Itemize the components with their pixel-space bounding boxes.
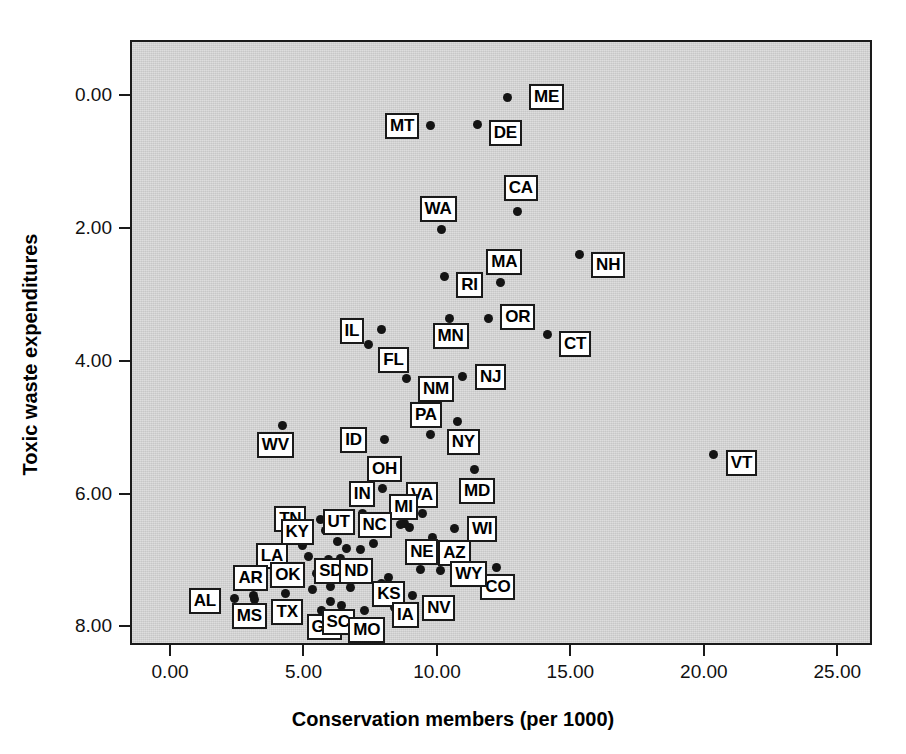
data-point: [426, 121, 435, 130]
x-tick-mark: [569, 645, 571, 656]
point-label-al: AL: [189, 588, 221, 614]
data-point: [709, 450, 718, 459]
point-label-ca: CA: [504, 175, 538, 201]
data-point: [278, 421, 287, 430]
data-point: [405, 523, 414, 532]
x-tick-label: 15.00: [547, 661, 595, 683]
x-tick-mark: [302, 645, 304, 656]
y-tick-mark: [119, 625, 130, 627]
data-point: [364, 340, 373, 349]
point-label-mt: MT: [385, 113, 419, 139]
data-point: [369, 539, 378, 548]
data-point: [396, 520, 405, 529]
point-label-pa: PA: [410, 402, 442, 428]
data-point: [453, 417, 462, 426]
data-point: [492, 563, 501, 572]
x-axis-label: Conservation members (per 1000): [0, 708, 906, 731]
point-label-wy: WY: [450, 561, 487, 587]
data-point: [304, 552, 313, 561]
x-tick-label: 0.00: [152, 661, 189, 683]
data-point: [360, 606, 369, 615]
data-point: [356, 545, 365, 554]
x-tick-mark: [436, 645, 438, 656]
point-label-ok: OK: [270, 562, 305, 588]
data-point: [458, 372, 467, 381]
point-label-il: IL: [340, 318, 365, 344]
point-label-id: ID: [340, 427, 367, 453]
point-label-nv: NV: [422, 595, 455, 621]
x-tick-label: 25.00: [814, 661, 862, 683]
data-point: [380, 435, 389, 444]
x-tick-label: 10.00: [413, 661, 461, 683]
data-point: [496, 278, 505, 287]
point-label-oh: OH: [367, 456, 402, 482]
point-label-tx: TX: [271, 599, 302, 625]
point-label-mi: MI: [389, 494, 417, 520]
data-point: [473, 120, 482, 129]
data-point: [513, 207, 522, 216]
data-point: [333, 537, 342, 546]
point-label-nm: NM: [418, 376, 454, 402]
data-point: [440, 272, 449, 281]
x-tick-mark: [169, 645, 171, 656]
point-label-nc: NC: [358, 512, 392, 538]
data-point: [308, 585, 317, 594]
scatter-plot-figure: MEMTDECAWANHRIMAORMNILCTFLNJNMNYPAIDWVVT…: [0, 0, 906, 754]
data-point: [402, 374, 411, 383]
data-point: [378, 484, 387, 493]
point-label-ky: KY: [281, 519, 314, 545]
data-point: [281, 589, 290, 598]
data-point: [342, 544, 351, 553]
data-point: [377, 325, 386, 334]
data-point: [436, 566, 445, 575]
data-point: [426, 430, 435, 439]
point-label-ia: IA: [392, 602, 419, 628]
point-label-wi: WI: [467, 516, 497, 542]
point-label-me: ME: [529, 84, 564, 110]
y-tick-mark: [119, 94, 130, 96]
point-label-nd: ND: [339, 558, 373, 584]
point-label-fl: FL: [378, 347, 408, 373]
point-label-in: IN: [349, 481, 376, 507]
plot-area: MEMTDECAWANHRIMAORMNILCTFLNJNMNYPAIDWVVT…: [130, 40, 872, 645]
y-axis-label-wrapper: Toxic waste expenditures: [0, 0, 42, 754]
y-tick-mark: [119, 360, 130, 362]
point-label-ne: NE: [405, 539, 438, 565]
y-tick-label: 8.00: [34, 615, 112, 637]
point-label-ar: AR: [233, 565, 267, 591]
x-tick-mark: [703, 645, 705, 656]
data-point: [437, 225, 446, 234]
point-label-ct: CT: [559, 331, 591, 357]
y-tick-label: 0.00: [34, 84, 112, 106]
point-label-nj: NJ: [475, 364, 506, 390]
y-tick-mark: [119, 493, 130, 495]
point-label-ny: NY: [447, 429, 480, 455]
data-point: [418, 509, 427, 518]
point-label-ma: MA: [486, 249, 522, 275]
point-label-nh: NH: [591, 252, 625, 278]
x-tick-mark: [836, 645, 838, 656]
x-tick-label: 20.00: [680, 661, 728, 683]
data-point: [230, 594, 239, 603]
data-point: [575, 250, 584, 259]
data-point: [450, 524, 459, 533]
point-label-or: OR: [500, 304, 535, 330]
point-label-ut: UT: [323, 509, 355, 535]
data-point: [416, 565, 425, 574]
x-tick-label: 5.00: [285, 661, 322, 683]
data-point: [470, 465, 479, 474]
y-tick-label: 4.00: [34, 350, 112, 372]
data-point: [408, 591, 417, 600]
y-tick-label: 2.00: [34, 217, 112, 239]
data-point: [543, 330, 552, 339]
point-label-vt: VT: [726, 450, 757, 476]
point-label-wa: WA: [420, 196, 457, 222]
y-tick-mark: [119, 227, 130, 229]
y-axis-label: Toxic waste expenditures: [19, 85, 42, 625]
data-point: [503, 93, 512, 102]
point-label-mn: MN: [433, 323, 469, 349]
point-label-md: MD: [459, 478, 495, 504]
point-label-wv: WV: [257, 432, 294, 458]
data-point: [346, 583, 355, 592]
point-label-ri: RI: [456, 272, 483, 298]
